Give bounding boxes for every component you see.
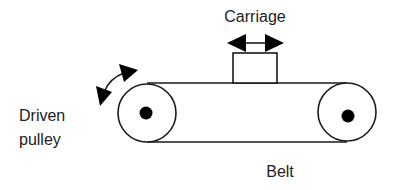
pulley-axle-icon xyxy=(140,107,153,120)
belt-drive-diagram: Carriage Driven pulley Belt xyxy=(0,0,398,190)
driven-pulley-label-line1: Driven xyxy=(19,107,65,124)
pulley-axle-icon xyxy=(342,110,355,123)
belt xyxy=(147,83,347,142)
carriage-block xyxy=(233,53,277,83)
idler-pulley xyxy=(318,83,376,141)
carriage-label: Carriage xyxy=(224,8,285,25)
belt-label: Belt xyxy=(266,163,294,180)
driven-pulley xyxy=(118,84,176,142)
driven-pulley-label-line2: pulley xyxy=(19,131,61,148)
carriage-motion-arrow-icon xyxy=(227,34,284,52)
